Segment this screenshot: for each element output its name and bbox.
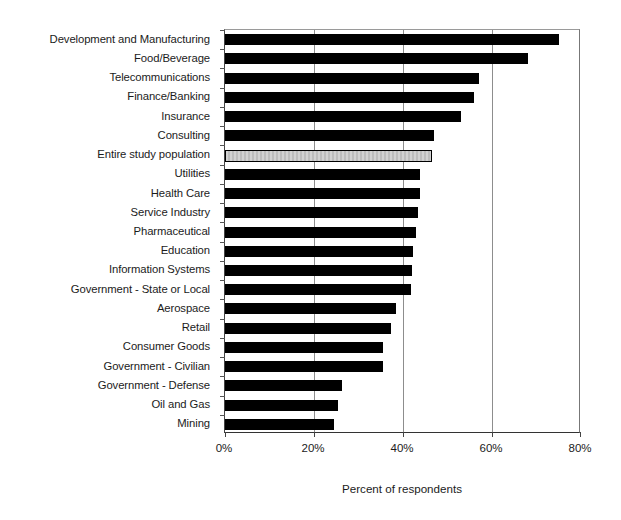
bar [225,361,383,372]
y-axis-tick [220,107,225,108]
category-label: Government - Defense [0,379,210,391]
y-axis-tick [220,280,225,281]
category-label: Finance/Banking [0,90,210,102]
bar [225,284,411,295]
y-axis-tick [220,68,225,69]
bar [225,265,412,276]
category-label: Retail [0,321,210,333]
x-axis-tick-label: 60% [479,441,502,455]
category-label: Insurance [0,110,210,122]
y-axis-tick [220,357,225,358]
bar [225,380,342,391]
y-axis-tick [220,145,225,146]
bar [225,246,413,257]
category-label: Development and Manufacturing [0,33,210,45]
bar [225,150,432,162]
category-label: Government - Civilian [0,360,210,372]
x-axis-tick [314,432,315,437]
x-axis-tick-label: 0% [216,441,233,455]
category-label: Education [0,244,210,256]
bar [225,111,461,122]
y-axis-tick [220,396,225,397]
y-axis-tick [220,88,225,89]
y-axis-tick [220,49,225,50]
bar [225,227,416,238]
y-axis-tick [220,299,225,300]
category-label: Telecommunications [0,71,210,83]
bar [225,207,418,218]
x-axis-title: Percent of respondents [224,482,580,495]
y-axis-tick [220,319,225,320]
category-label: Food/Beverage [0,52,210,64]
category-label: Government - State or Local [0,283,210,295]
x-axis-tick-label: 20% [301,441,324,455]
x-axis-tick-label: 40% [390,441,413,455]
bar [225,342,383,353]
category-label: Information Systems [0,263,210,275]
bar [225,34,559,45]
category-label: Pharmaceutical [0,225,210,237]
bar [225,130,434,141]
y-axis-tick [220,222,225,223]
y-axis-tick [220,376,225,377]
bar [225,92,474,103]
bar [225,400,338,411]
bar [225,323,391,334]
bar [225,188,420,199]
plot-area [224,29,580,433]
x-axis-tick [580,432,581,437]
category-label: Consulting [0,129,210,141]
y-axis-tick [220,203,225,204]
category-label: Oil and Gas [0,398,210,410]
y-axis-tick [220,338,225,339]
horizontal-bar-chart: Development and ManufacturingFood/Bevera… [0,0,621,520]
category-axis-labels: Development and ManufacturingFood/Bevera… [0,29,216,433]
bar [225,169,420,180]
x-axis-tick [403,432,404,437]
x-axis-tick-label: 80% [568,441,591,455]
category-label: Mining [0,417,210,429]
bar [225,73,479,84]
category-label: Utilities [0,167,210,179]
category-label: Entire study population [0,148,210,160]
category-label: Consumer Goods [0,340,210,352]
x-axis-tick-labels: 0%20%40%60%80% [224,441,580,459]
bar [225,419,334,430]
y-axis-tick [220,261,225,262]
y-axis-tick [220,126,225,127]
category-label: Aerospace [0,302,210,314]
x-axis-tick [492,432,493,437]
category-label: Health Care [0,187,210,199]
y-axis-tick [220,184,225,185]
category-label: Service Industry [0,206,210,218]
y-axis-tick [220,242,225,243]
bar [225,303,396,314]
y-axis-tick [220,165,225,166]
x-axis-tick [225,432,226,437]
y-axis-tick [220,415,225,416]
gridline [492,30,493,432]
bar [225,53,528,64]
y-axis-tick [220,30,225,31]
